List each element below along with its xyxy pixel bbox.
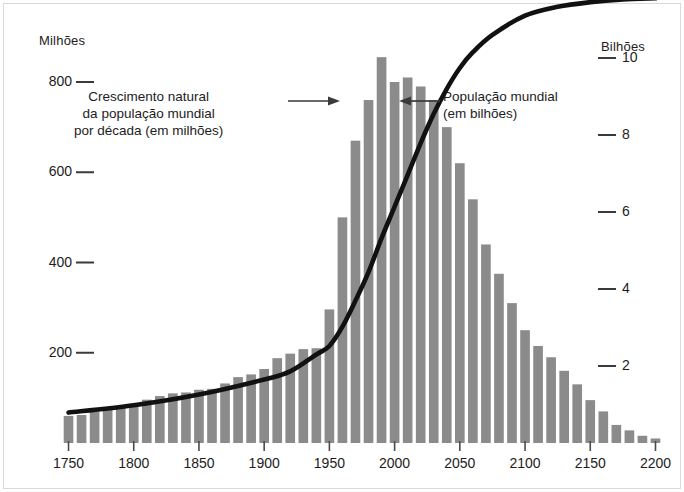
bar bbox=[116, 407, 126, 443]
bar bbox=[481, 244, 491, 443]
bar bbox=[181, 392, 191, 443]
bar bbox=[103, 408, 113, 443]
bar bbox=[429, 100, 439, 443]
bar bbox=[533, 346, 543, 443]
population-chart-figure: Milhões Bilhões Crescimento natural da p… bbox=[0, 0, 684, 492]
bar bbox=[207, 389, 217, 443]
right-axis-ticks bbox=[598, 58, 616, 366]
x-axis-tick-label: 2150 bbox=[560, 455, 620, 471]
bar bbox=[194, 390, 204, 443]
right-axis-tick-label: 2 bbox=[622, 357, 662, 373]
bar bbox=[572, 384, 582, 443]
left-axis-tick-label: 600 bbox=[26, 163, 72, 179]
left-axis-ticks bbox=[76, 82, 94, 353]
bar bbox=[390, 82, 400, 443]
bar bbox=[312, 348, 322, 443]
bar bbox=[520, 330, 530, 443]
bar bbox=[546, 357, 556, 443]
bar bbox=[494, 274, 504, 443]
left-axis-tick-label: 400 bbox=[26, 254, 72, 270]
x-axis-tick-label: 2000 bbox=[365, 455, 425, 471]
x-axis-tick-label: 2050 bbox=[430, 455, 490, 471]
right-axis-tick-label: 6 bbox=[622, 203, 662, 219]
bar bbox=[468, 199, 478, 443]
bar bbox=[77, 415, 87, 443]
bar bbox=[64, 416, 74, 443]
bar bbox=[325, 309, 335, 443]
bars-group bbox=[64, 57, 661, 443]
x-axis-tick-label: 1750 bbox=[39, 455, 99, 471]
bar bbox=[455, 163, 465, 443]
right-axis-tick-label: 10 bbox=[622, 49, 662, 65]
plot-area bbox=[0, 0, 684, 492]
bar bbox=[220, 383, 230, 443]
x-axis-tick-label: 2100 bbox=[495, 455, 555, 471]
bar bbox=[638, 436, 648, 443]
x-axis-tick-label: 1800 bbox=[104, 455, 164, 471]
bars-annotation-arrow bbox=[288, 97, 340, 106]
left-axis-tick-label: 200 bbox=[26, 344, 72, 360]
bar bbox=[272, 358, 282, 443]
bar bbox=[612, 425, 622, 443]
bar bbox=[598, 411, 608, 443]
bar bbox=[585, 400, 595, 443]
x-axis-tick-label: 1850 bbox=[169, 455, 229, 471]
x-axis-tick-label: 2200 bbox=[625, 455, 684, 471]
bar bbox=[90, 411, 100, 443]
bar bbox=[507, 303, 517, 443]
x-axis-tick-label: 1900 bbox=[234, 455, 294, 471]
right-axis-tick-label: 8 bbox=[622, 126, 662, 142]
bar bbox=[403, 77, 413, 443]
bar bbox=[559, 371, 569, 443]
bar bbox=[625, 430, 635, 443]
right-axis-tick-label: 4 bbox=[622, 280, 662, 296]
left-axis-tick-label: 800 bbox=[26, 73, 72, 89]
bar bbox=[442, 127, 452, 443]
x-axis-tick-label: 1950 bbox=[299, 455, 359, 471]
world-population-curve bbox=[69, 0, 656, 413]
bar bbox=[129, 406, 139, 443]
